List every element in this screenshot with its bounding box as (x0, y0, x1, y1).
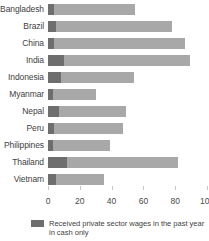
category-label-myanmar: Myanmar (0, 90, 48, 99)
bar-row: Philippines (0, 137, 209, 154)
bar-row: Brazil (0, 18, 209, 35)
bar-segment-cash-only (48, 72, 61, 83)
bar-segment-cash-only (48, 157, 67, 168)
bar-stack (48, 140, 110, 151)
bar-stack (48, 174, 104, 185)
legend-swatch-cash-only (31, 220, 44, 227)
bar-stack (48, 89, 96, 100)
bar-row: Bangladesh (0, 1, 209, 18)
bar-stack (48, 38, 185, 49)
x-tick-label: 60 (139, 196, 148, 206)
bar-stack (48, 4, 135, 15)
bar-rows: BangladeshBrazilChinaIndiaIndonesiaMyanm… (0, 1, 209, 188)
category-label-brazil: Brazil (0, 22, 48, 31)
bar-track (48, 18, 209, 35)
bar-stack (48, 21, 172, 32)
x-tick-label: 100 (200, 196, 209, 206)
bar-segment-other (54, 38, 184, 49)
x-tick-label: 80 (170, 196, 179, 206)
bar-segment-other (53, 89, 96, 100)
bar-segment-other (54, 123, 122, 134)
bar-segment-cash-only (48, 21, 56, 32)
category-label-bangladesh: Bangladesh (0, 5, 48, 14)
bar-segment-other (61, 72, 134, 83)
bar-row: Nepal (0, 103, 209, 120)
bar-segment-other (54, 4, 135, 15)
x-tick-label: 40 (107, 196, 116, 206)
bar-stack (48, 106, 126, 117)
x-tick-label: 20 (75, 196, 84, 206)
bar-track (48, 69, 209, 86)
bar-segment-other (64, 55, 190, 66)
bar-row: Vietnam (0, 171, 209, 188)
category-label-china: China (0, 39, 48, 48)
bar-track (48, 52, 209, 69)
bar-row: Thailand (0, 154, 209, 171)
category-label-india: India (0, 56, 48, 65)
category-label-peru: Peru (0, 124, 48, 133)
category-label-philippines: Philippines (0, 141, 48, 150)
bar-stack (48, 55, 190, 66)
legend-label-cash-only: Received private sector wages in the pas… (49, 219, 207, 237)
category-label-nepal: Nepal (0, 107, 48, 116)
bar-row: China (0, 35, 209, 52)
category-label-indonesia: Indonesia (0, 73, 48, 82)
bar-segment-other (56, 174, 104, 185)
bar-track (48, 171, 209, 188)
category-label-vietnam: Vietnam (0, 175, 48, 184)
bar-segment-other (56, 21, 172, 32)
bar-stack (48, 123, 123, 134)
bar-segment-cash-only (48, 106, 59, 117)
bar-stack (48, 72, 134, 83)
bar-track (48, 120, 209, 137)
bar-row: Peru (0, 120, 209, 137)
bar-track (48, 103, 209, 120)
bar-segment-other (67, 157, 178, 168)
horizontal-stacked-bar-chart: BangladeshBrazilChinaIndiaIndonesiaMyanm… (0, 0, 209, 241)
bar-track (48, 1, 209, 18)
bar-track (48, 137, 209, 154)
bar-row: Myanmar (0, 86, 209, 103)
bar-segment-cash-only (48, 174, 56, 185)
x-axis: 020406080100 (48, 196, 209, 210)
bar-segment-other (53, 140, 110, 151)
bar-row: Indonesia (0, 69, 209, 86)
bar-track (48, 86, 209, 103)
bar-segment-other (59, 106, 126, 117)
bar-stack (48, 157, 178, 168)
plot-area: BangladeshBrazilChinaIndiaIndonesiaMyanm… (0, 0, 209, 196)
chart-legend: Received private sector wages in the pas… (31, 219, 207, 237)
bar-track (48, 154, 209, 171)
bar-segment-cash-only (48, 55, 64, 66)
bar-track (48, 35, 209, 52)
bar-row: India (0, 52, 209, 69)
x-tick-label: 0 (46, 196, 51, 206)
category-label-thailand: Thailand (0, 158, 48, 167)
